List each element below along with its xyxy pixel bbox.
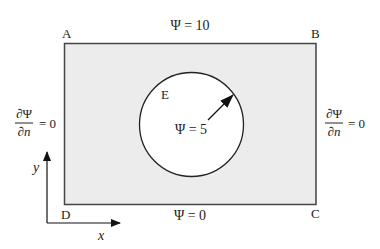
region-label-e: E: [161, 87, 169, 102]
corner-label-d: D: [61, 207, 70, 222]
y-axis-label: y: [31, 160, 40, 175]
top-boundary-label: Ψ = 10: [170, 18, 209, 33]
inner-boundary-label: Ψ = 5: [175, 122, 207, 137]
right-rhs: = 0: [348, 116, 365, 131]
corner-label-a: A: [62, 26, 72, 41]
right-denominator: ∂n: [328, 124, 341, 139]
left-boundary-condition: ∂Ψ ∂n = 0: [15, 106, 56, 139]
left-numerator: ∂Ψ: [16, 106, 32, 121]
left-denominator: ∂n: [18, 124, 31, 139]
corner-label-b: B: [311, 26, 320, 41]
bottom-boundary-label: Ψ = 0: [174, 208, 206, 223]
x-axis-label: x: [97, 228, 105, 243]
corner-label-c: C: [311, 206, 320, 221]
left-rhs: = 0: [39, 116, 56, 131]
diagram-canvas: A B C D E Ψ = 10 Ψ = 0 Ψ = 5 ∂Ψ ∂n = 0 ∂…: [0, 0, 380, 249]
right-numerator: ∂Ψ: [326, 106, 342, 121]
right-boundary-condition: ∂Ψ ∂n = 0: [325, 106, 365, 139]
